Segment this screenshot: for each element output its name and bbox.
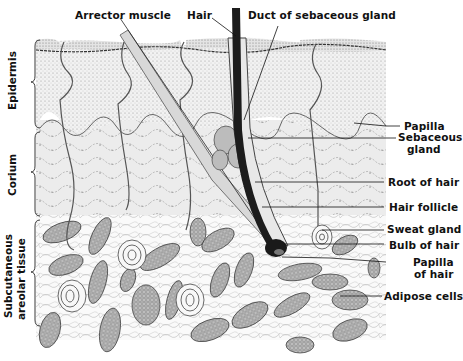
label-papilla-of-hair-2: of hair	[414, 268, 453, 280]
papilla-of-hair	[274, 249, 284, 255]
label-arrector-muscle: Arrector muscle	[75, 9, 171, 21]
label-papilla-of-hair-1: Papilla	[413, 256, 454, 268]
label-hair-follicle: Hair follicle	[389, 201, 458, 213]
label-root-of-hair: Root of hair	[388, 176, 459, 188]
label-corium: Corium	[6, 154, 18, 196]
label-hair: Hair	[187, 9, 212, 21]
label-epidermis: Epidermis	[6, 51, 18, 110]
label-duct-of-sebaceous-gland: Duct of sebaceous gland	[248, 9, 396, 21]
label-sweat-gland: Sweat gland	[387, 223, 461, 235]
label-gland: gland	[407, 143, 441, 155]
label-sebaceous: Sebaceous	[398, 131, 462, 143]
label-bulb-of-hair: Bulb of hair	[389, 239, 459, 251]
label-areolar-tissue: areolar tissue	[15, 238, 27, 320]
label-adipose-cells: Adipose cells	[384, 290, 463, 302]
label-subcutaneous: Subcutaneous	[2, 234, 14, 318]
